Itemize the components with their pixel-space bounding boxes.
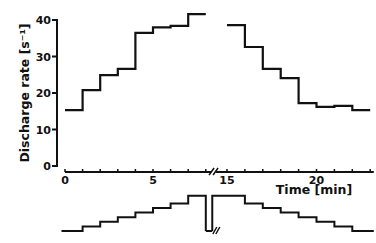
y-tick-label: 0 [43,160,51,173]
x-axis-title: Time [min] [276,182,352,197]
step-series-line [65,14,206,110]
y-axis: 010203040 [36,14,57,173]
x-tick-label: 15 [219,174,234,187]
discharge-rate-chart: 010203040 051520 Discharge rate [s⁻¹] Ti… [0,0,376,243]
y-axis-title: Discharge rate [s⁻¹] [17,23,32,162]
y-tick-label: 30 [36,51,52,64]
x-tick-label: 0 [61,174,69,187]
series-layer [65,14,370,110]
y-tick-label: 40 [36,14,52,27]
x-tick-label: 5 [149,174,157,187]
stimulus-trace [61,196,373,234]
stimulus-descending-line [212,196,374,231]
stimulus-ascending-line [61,196,205,231]
step-series-line [227,25,370,110]
y-tick-label: 20 [36,87,52,100]
stimulus-break-icon [213,227,220,234]
y-tick-label: 10 [36,124,52,137]
